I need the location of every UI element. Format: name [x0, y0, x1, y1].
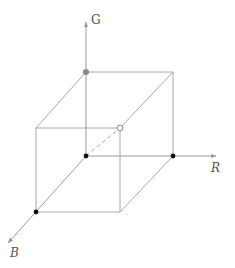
axes	[8, 22, 216, 243]
green-vertex-dot-icon	[83, 69, 89, 75]
axis-label-b: B	[10, 247, 19, 259]
axis-label-g: G	[91, 14, 101, 26]
cube-edge	[36, 72, 86, 128]
red-vertex-dot-icon	[171, 154, 176, 159]
cube-edge	[120, 156, 173, 212]
vertex-points	[34, 69, 176, 214]
cube-edges	[36, 72, 173, 212]
dashed-diagonal	[86, 128, 120, 156]
cube-edge	[120, 72, 173, 128]
axis-b-arrow	[8, 156, 86, 243]
axis-label-r: R	[211, 162, 220, 174]
black-origin-dot-icon	[84, 154, 89, 159]
blue-vertex-dot-icon	[34, 210, 39, 215]
rgb-cube-diagram	[0, 0, 235, 268]
white-vertex-dot-icon	[117, 125, 123, 131]
